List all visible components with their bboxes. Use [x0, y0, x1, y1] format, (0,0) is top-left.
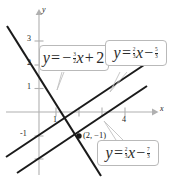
eq3-variable: x	[128, 145, 135, 161]
eq3-equals: =	[113, 145, 124, 161]
callout-line-1: y = − 3 2 x + 2	[39, 45, 109, 71]
eq3-constant-denominator: 3	[147, 153, 150, 160]
eq1-operator: +	[84, 50, 95, 66]
x-axis-arrow	[152, 109, 159, 116]
callout-3-tail	[104, 121, 123, 140]
eq2-constant-fraction: 5 3	[155, 47, 159, 59]
x-tick-label-4: 4	[122, 115, 126, 124]
y-tick-label-3: 3	[27, 34, 31, 43]
callout-line-2: y = 2 3 x − 5 3	[105, 40, 167, 66]
y-tick-label-neg1: -1	[20, 129, 27, 138]
x-axis-label: x	[160, 104, 164, 113]
eq2-variable: x	[136, 45, 143, 61]
eq3-lhs: y	[106, 145, 113, 161]
intersection-point-marker	[76, 133, 81, 138]
y-tick-label-2: 2	[27, 58, 31, 67]
callout-line-3: y = 2 3 x − 7 3	[97, 140, 159, 166]
equation-1: y = − 3 2 x + 2	[43, 50, 106, 66]
equation-3: y = 2 3 x − 7 3	[106, 145, 151, 161]
callout-1-tail	[57, 72, 64, 90]
callout-2-tail	[110, 72, 127, 92]
eq3-slope-denominator: 3	[125, 153, 128, 160]
eq1-equals: =	[50, 50, 61, 66]
eq1-variable: x	[76, 50, 83, 66]
eq1-sign: −	[61, 50, 72, 66]
eq3-operator: −	[135, 145, 146, 161]
eq2-operator: −	[143, 45, 154, 61]
y-tick-label-1: 1	[27, 82, 31, 91]
intersection-point-label: (2, −1)	[83, 130, 106, 140]
eq2-constant-denominator: 3	[155, 53, 158, 60]
eq3-constant-fraction: 7 3	[147, 147, 151, 159]
eq2-equals: =	[121, 45, 132, 61]
eq2-lhs: y	[114, 45, 121, 61]
figure-canvas: y x 3 2 1 -1 1 4 (2, −1) y = − 3 2 x + 2…	[0, 0, 171, 181]
equation-2: y = 2 3 x − 5 3	[114, 45, 159, 61]
y-axis-label: y	[42, 5, 46, 14]
eq2-slope-denominator: 3	[133, 53, 136, 60]
x-tick-label-1: 1	[53, 115, 57, 124]
eq1-lhs: y	[43, 50, 50, 66]
eq1-constant: 2	[95, 50, 105, 66]
